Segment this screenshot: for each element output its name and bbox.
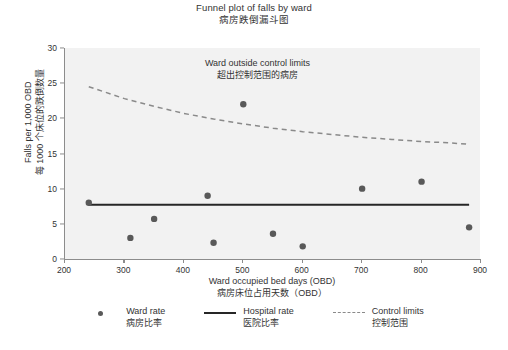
- x-tick-mark: [64, 259, 65, 263]
- y-tick-label: 20: [48, 113, 57, 123]
- chart-legend: Ward rate病房比率Hospital rate医院比率Control li…: [30, 305, 480, 345]
- legend-dot-icon: [86, 307, 120, 318]
- legend-label-zh: 控制范围: [372, 317, 424, 329]
- data-point: [300, 243, 306, 249]
- chart-title-block: Funnel plot of falls by ward 病房跌倒漏斗图: [0, 2, 508, 26]
- y-axis-title-zh: 每 1000 个床位的跌倒数量: [34, 2, 46, 242]
- x-tick-label: 800: [413, 265, 427, 275]
- funnel-plot-figure: Funnel plot of falls by ward 病房跌倒漏斗图 051…: [0, 0, 508, 350]
- y-tick-label: 0: [52, 254, 57, 264]
- x-tick-mark: [242, 259, 243, 263]
- chart-title-zh: 病房跌倒漏斗图: [0, 14, 508, 26]
- x-tick-label: 200: [57, 265, 71, 275]
- x-tick-mark: [480, 259, 481, 263]
- x-tick-mark: [361, 259, 362, 263]
- x-axis-title: Ward occupied bed days (OBD) 病房床位占用天数（OB…: [64, 276, 480, 299]
- data-point: [466, 224, 472, 230]
- series-path: [89, 87, 469, 145]
- data-point: [204, 193, 210, 199]
- control-limits-curve: [89, 87, 469, 145]
- x-tick-mark: [302, 259, 303, 263]
- y-tick-label: 30: [48, 43, 57, 53]
- legend-item[interactable]: Control limits控制范围: [332, 305, 424, 329]
- x-tick-mark: [183, 259, 184, 263]
- legend-label: Control limits控制范围: [372, 305, 424, 329]
- y-tick-mark: [60, 47, 64, 48]
- outlier-annotation: Ward outside control limits 超出控制范围的病房: [150, 58, 365, 81]
- x-axis-title-en: Ward occupied bed days (OBD): [64, 276, 480, 288]
- x-tick-label: 400: [176, 265, 190, 275]
- y-tick-label: 25: [48, 78, 57, 88]
- legend-solid-line-icon: [203, 307, 237, 318]
- data-point: [359, 185, 365, 191]
- legend-item[interactable]: Hospital rate医院比率: [203, 305, 294, 329]
- x-tick-label: 300: [116, 265, 130, 275]
- y-axis-title: Falls per 1,000 OBD 每 1000 个床位的跌倒数量: [22, 2, 46, 242]
- data-point: [240, 101, 246, 107]
- legend-label: Hospital rate医院比率: [243, 305, 294, 329]
- y-tick-mark: [60, 83, 64, 84]
- x-tick-label: 600: [295, 265, 309, 275]
- ward-rate-points: [86, 101, 473, 249]
- data-point: [418, 178, 424, 184]
- outlier-annotation-zh: 超出控制范围的病房: [150, 70, 365, 82]
- legend-label: Ward rate病房比率: [126, 305, 165, 329]
- legend-label-zh: 病房比率: [126, 317, 165, 329]
- data-point: [127, 235, 133, 241]
- y-tick-mark: [60, 153, 64, 154]
- x-axis-title-zh: 病房床位占用天数（OBD）: [64, 288, 480, 300]
- y-tick-label: 15: [48, 149, 57, 159]
- x-tick-label: 500: [235, 265, 249, 275]
- outlier-annotation-en: Ward outside control limits: [150, 58, 365, 70]
- chart-title-en: Funnel plot of falls by ward: [0, 2, 508, 14]
- x-tick-mark: [123, 259, 124, 263]
- data-point: [270, 230, 276, 236]
- y-tick-label: 5: [52, 219, 57, 229]
- y-axis-title-en: Falls per 1,000 OBD: [22, 2, 34, 242]
- x-tick-mark: [421, 259, 422, 263]
- x-tick-label: 900: [473, 265, 487, 275]
- y-tick-mark: [60, 188, 64, 189]
- data-point: [151, 216, 157, 222]
- legend-label-en: Ward rate: [126, 305, 165, 317]
- legend-label-en: Control limits: [372, 305, 424, 317]
- y-tick-mark: [60, 223, 64, 224]
- data-point: [210, 240, 216, 246]
- y-tick-label: 10: [48, 184, 57, 194]
- data-point: [86, 200, 92, 206]
- legend-dashed-line-icon: [332, 307, 366, 318]
- legend-label-en: Hospital rate: [243, 305, 294, 317]
- y-tick-mark: [60, 118, 64, 119]
- x-tick-label: 700: [354, 265, 368, 275]
- legend-item[interactable]: Ward rate病房比率: [86, 305, 165, 329]
- legend-label-zh: 医院比率: [243, 317, 294, 329]
